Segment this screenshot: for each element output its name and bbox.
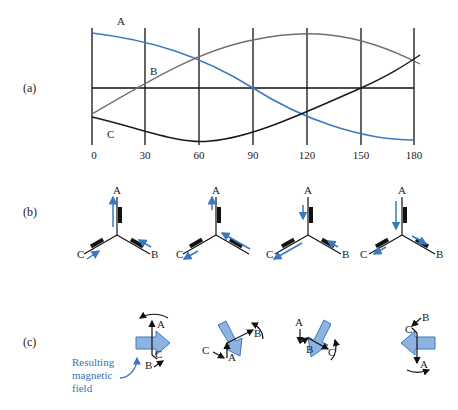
svg-text:A: A [295,316,303,328]
svg-text:30: 30 [140,149,152,161]
svg-text:90: 90 [248,149,260,161]
field-annotation: Resulting magnetic field [72,356,137,394]
svg-text:180: 180 [406,149,423,161]
curve-c [92,55,420,142]
svg-text:B: B [342,248,349,260]
svg-text:A: A [113,184,121,196]
svg-text:A: A [228,351,236,363]
winding-star-1: A C B [77,184,158,260]
svg-text:C: C [176,248,183,260]
winding-star-3: A C B [266,184,349,260]
svg-text:C: C [328,346,335,358]
svg-text:magnetic: magnetic [72,369,112,381]
svg-text:C: C [155,348,162,360]
svg-text:150: 150 [353,149,370,161]
curve-label-b: B [150,65,157,77]
svg-text:C: C [202,344,209,356]
svg-text:B: B [422,311,429,323]
field-diagram-1: A C B [136,314,170,371]
svg-text:C: C [266,248,273,260]
svg-text:A: A [304,184,312,196]
curve-label-c: C [107,128,114,140]
part-c-label: (c) [23,335,36,349]
winding-star-2: A C [176,184,250,260]
curve-b [92,34,420,114]
winding-star-4: A C B [360,184,443,260]
svg-text:120: 120 [299,149,316,161]
svg-text:B: B [145,359,152,371]
x-axis-ticks: 0 30 60 90 120 150 180 [91,149,423,161]
svg-text:field: field [72,382,93,394]
svg-text:60: 60 [194,149,206,161]
svg-text:A: A [157,318,165,330]
svg-text:A: A [398,184,406,196]
field-diagram-2: A B C [202,321,263,363]
svg-text:C: C [360,248,367,260]
svg-text:A: A [420,358,428,370]
svg-text:Resulting: Resulting [72,356,115,368]
svg-text:B: B [254,327,261,339]
curve-label-a: A [117,15,125,27]
svg-text:C: C [77,248,84,260]
part-a-label: (a) [23,81,36,95]
field-diagram-3: A B C [295,316,336,360]
three-phase-diagram: (a) A B C 0 30 60 90 120 150 180 (b) A C [0,0,458,410]
svg-text:A: A [212,184,220,196]
svg-text:B: B [306,343,313,355]
part-b-label: (b) [23,205,37,219]
svg-text:C: C [405,323,412,335]
field-diagram-4: A B C [401,311,435,372]
svg-text:0: 0 [91,149,97,161]
svg-text:B: B [436,248,443,260]
svg-text:B: B [151,248,158,260]
